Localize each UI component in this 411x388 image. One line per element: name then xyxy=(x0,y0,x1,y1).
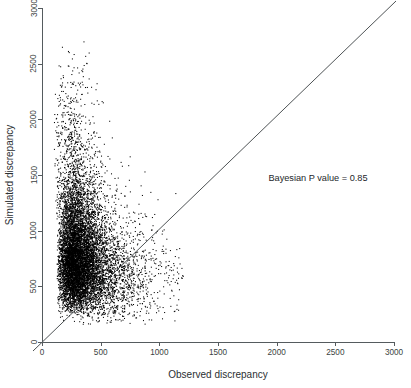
y-tick-label: 1500 xyxy=(30,165,39,184)
x-tick-label: 500 xyxy=(94,348,108,357)
y-axis-ticks: 050010001500200025003000 xyxy=(30,0,43,344)
y-tick-label: 3000 xyxy=(30,0,39,17)
bayesian-p-value-annotation: Bayesian P value = 0.85 xyxy=(268,173,367,183)
y-tick-label: 500 xyxy=(30,279,39,293)
y-tick-label: 0 xyxy=(30,339,39,344)
y-tick-label: 2000 xyxy=(30,110,39,129)
x-tick-label: 2500 xyxy=(326,348,345,357)
x-axis-ticks: 050010001500200025003000 xyxy=(40,342,404,357)
x-axis-title: Observed discrepancy xyxy=(168,369,268,380)
y-axis-title: Simulated discrepancy xyxy=(4,125,15,226)
chart-canvas: 050010001500200025003000 050010001500200… xyxy=(0,0,411,388)
y-tick-label: 1000 xyxy=(30,221,39,240)
x-tick-label: 1000 xyxy=(150,348,169,357)
x-tick-label: 2000 xyxy=(268,348,287,357)
scatter-plot-figure: 050010001500200025003000 050010001500200… xyxy=(0,0,411,388)
data-point-cloud xyxy=(54,41,184,324)
x-tick-label: 1500 xyxy=(209,348,228,357)
x-tick-label: 0 xyxy=(40,348,45,357)
y-tick-label: 2500 xyxy=(30,54,39,73)
x-tick-label: 3000 xyxy=(385,348,404,357)
